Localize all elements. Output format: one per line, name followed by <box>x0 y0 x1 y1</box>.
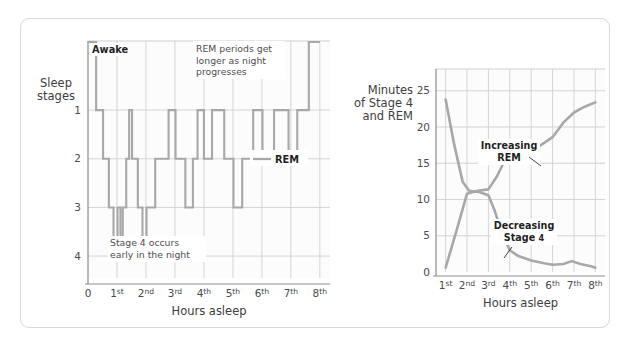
annotation-decreasing-stage4-line: Stage 4 <box>504 232 545 243</box>
right-y-tick-label: 20 <box>417 121 430 133</box>
right-y-tick-label: 0 <box>423 266 430 278</box>
right-y-axis-title: Minutesof Stage 4and REM <box>354 83 413 123</box>
right-x-tick-label: 2nd <box>459 279 476 291</box>
right-x-tick-label: 3rd <box>481 279 496 291</box>
figure-root: 123401st2nd3rd4th5th6th7th8thHours aslee… <box>0 0 630 348</box>
right-y-axis-title-line: of Stage 4 <box>354 96 413 110</box>
right-y-tick-label: 5 <box>423 229 430 241</box>
annotation-increasing-rem-line: Increasing <box>481 140 538 151</box>
right-x-tick-label: 8th <box>588 279 603 291</box>
right-y-tick-label: 10 <box>417 193 430 205</box>
annotation-decreasing-stage4-line: Decreasing <box>494 220 555 231</box>
right-x-tick-labels: 1st2nd3rd4th5th6th7th8th <box>439 279 603 291</box>
right-x-tick-label: 7th <box>567 279 582 291</box>
right-y-tick-label: 25 <box>417 84 430 96</box>
right-y-tick-labels: 0510152025 <box>417 84 430 277</box>
right-x-tick-label: 5th <box>524 279 539 291</box>
right-x-tick-label: 4th <box>503 279 518 291</box>
right-x-tick-label: 1st <box>439 279 453 291</box>
right-y-tick-label: 15 <box>417 157 430 169</box>
right-x-tick-label: 6th <box>545 279 560 291</box>
annotation-increasing-rem: IncreasingREM <box>478 139 541 166</box>
right-y-axis-title-line: and REM <box>363 109 413 123</box>
annotation-increasing-rem-line: REM <box>497 152 521 163</box>
right-x-axis-title: Hours asleep <box>483 296 558 310</box>
right-y-axis-title-line: Minutes <box>368 83 413 97</box>
right-chart: 05101520251st2nd3rd4th5th6th7th8thHours … <box>0 0 630 330</box>
